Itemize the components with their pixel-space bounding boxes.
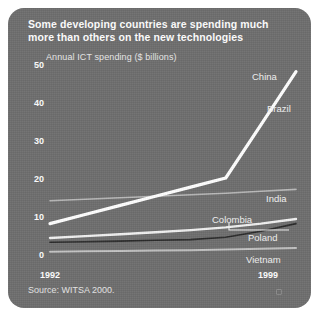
series-line-china xyxy=(50,72,296,224)
series-label-china: China xyxy=(252,71,277,82)
corner-mark xyxy=(276,289,282,295)
series-label-poland: Poland xyxy=(248,232,278,243)
series-label-brazil: Brazil xyxy=(267,103,291,114)
series-label-colombia: Colombia xyxy=(212,214,252,225)
series-label-india: India xyxy=(266,193,287,204)
chart-figure: Some developing countries are spending m… xyxy=(8,8,311,308)
series-label-vietnam: Vietnam xyxy=(246,254,281,265)
chart-source: Source: WITSA 2000. xyxy=(28,285,115,295)
series-line-vietnam xyxy=(50,248,296,252)
